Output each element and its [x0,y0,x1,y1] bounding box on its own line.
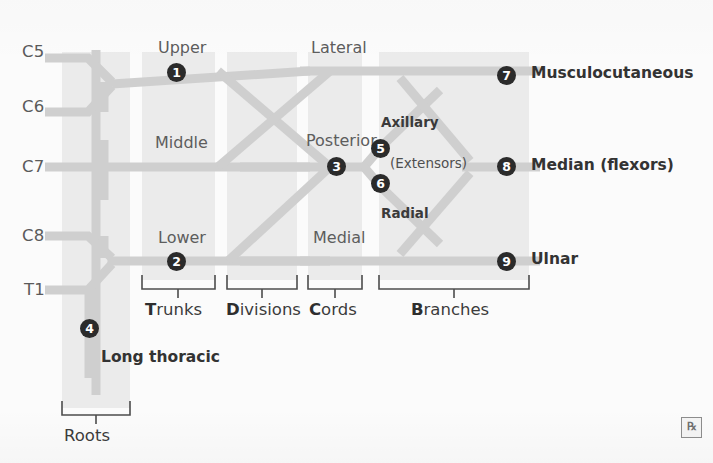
stage-rest-trunks: runks [156,300,202,319]
branch-label-extensors: (Extensors) [390,155,467,171]
stage-rest-divisions: ivisions [240,300,301,319]
root-label-c7: C7 [22,157,44,176]
stage-label-divisions: Divisions [226,300,301,319]
stage-label-roots: Roots [64,426,110,445]
marker-8-median[interactable]: 8 [497,157,516,176]
branch-label-long-thoracic: Long thoracic [101,348,220,366]
stage-rest-cords: ords [321,300,357,319]
trunk-label-upper: Upper [158,38,206,57]
cord-label-posterior: Posterior [306,131,377,150]
marker-2-lower-trunk[interactable]: 2 [167,252,186,271]
marker-3-posterior-cord[interactable]: 3 [327,157,346,176]
trunk-label-lower: Lower [158,228,206,247]
stage-label-branches: Branches [411,300,489,319]
marker-4-long-thoracic[interactable]: 4 [80,319,99,338]
branch-label-radial: Radial [381,205,429,221]
stage-rest-roots: Roots [64,426,110,445]
rx-logo-icon: ℞ [681,417,702,438]
brachial-plexus-diagram: .band { fill:#ebebeb; } .nerve { fill:no… [0,0,713,463]
branch-label-ulnar: Ulnar [531,250,578,268]
branch-label-musculocutaneous: Musculocutaneous [531,64,693,82]
marker-7-musculocutaneous[interactable]: 7 [497,66,516,85]
marker-1-upper-trunk[interactable]: 1 [167,63,186,82]
branch-label-axillary: Axillary [381,114,439,130]
root-label-c6: C6 [22,97,44,116]
marker-9-ulnar[interactable]: 9 [497,252,516,271]
stage-initial-branches: B [411,300,424,319]
stage-rest-branches: ranches [424,300,490,319]
branch-label-median: Median (flexors) [531,156,674,174]
root-label-t1: T1 [24,280,45,299]
root-label-c5: C5 [22,42,44,61]
trunk-label-middle: Middle [155,133,208,152]
stage-initial-divisions: D [226,300,240,319]
stage-label-cords: Cords [309,300,357,319]
marker-5-axillary[interactable]: 5 [371,139,390,158]
cord-label-lateral: Lateral [311,38,367,57]
root-label-c8: C8 [22,226,44,245]
marker-6-radial[interactable]: 6 [371,174,390,193]
stage-initial-cords: C [309,300,321,319]
stage-initial-trunks: T [145,300,156,319]
stage-label-trunks: Trunks [145,300,202,319]
cord-label-medial: Medial [313,228,366,247]
